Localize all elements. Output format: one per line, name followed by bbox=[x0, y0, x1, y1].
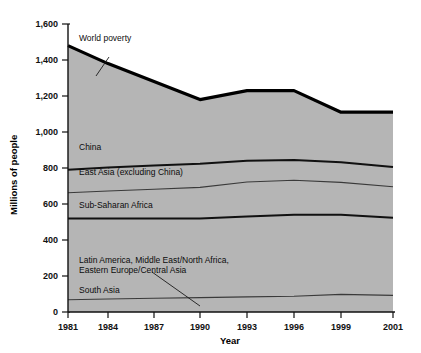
y-tick-label: 1,600 bbox=[35, 19, 58, 29]
y-tick-label: 400 bbox=[43, 235, 58, 245]
x-axis-tick-labels: 19811984198719901993199619992001 bbox=[58, 322, 403, 332]
x-tick-label: 1996 bbox=[284, 322, 304, 332]
annotation-latin-america-line1: Latin America, Middle East/North Africa, bbox=[79, 255, 229, 265]
x-axis-title: Year bbox=[220, 335, 240, 346]
y-tick-label: 800 bbox=[43, 163, 58, 173]
annotation-sub-saharan-africa: Sub-Saharan Africa bbox=[79, 200, 153, 210]
y-tick-label: 1,000 bbox=[35, 127, 58, 137]
annotation-world-poverty: World poverty bbox=[79, 33, 132, 43]
x-tick-label: 1993 bbox=[237, 322, 257, 332]
y-tick-label: 0 bbox=[53, 307, 58, 317]
y-axis-tick-labels: 02004006008001,0001,2001,4001,600 bbox=[35, 19, 58, 317]
y-tick-label: 1,200 bbox=[35, 91, 58, 101]
x-tick-label: 1990 bbox=[190, 322, 210, 332]
y-axis-title: Millions of people bbox=[8, 135, 19, 215]
chart-canvas: Millions of people 02004006008001,0001,2… bbox=[0, 0, 421, 353]
annotation-east-asia: East Asia (excluding China) bbox=[79, 167, 183, 177]
x-tick-label: 1984 bbox=[98, 322, 118, 332]
y-tick-label: 600 bbox=[43, 199, 58, 209]
y-tick-label: 1,400 bbox=[35, 55, 58, 65]
x-tick-label: 1987 bbox=[144, 322, 164, 332]
annotation-china: China bbox=[79, 142, 101, 152]
y-tick-label: 200 bbox=[43, 271, 58, 281]
annotation-south-asia: South Asia bbox=[79, 285, 120, 295]
poverty-area-chart: Millions of people 02004006008001,0001,2… bbox=[0, 0, 421, 353]
x-tick-label: 1999 bbox=[331, 322, 351, 332]
x-tick-label: 1981 bbox=[58, 322, 78, 332]
x-tick-label: 2001 bbox=[383, 322, 403, 332]
x-axis-tick-marks bbox=[68, 312, 393, 318]
annotation-latin-america-line2: Eastern Europe/Central Asia bbox=[79, 265, 187, 275]
